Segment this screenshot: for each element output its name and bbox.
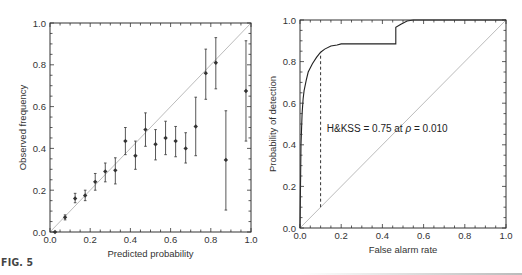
figure-label: FIG. 5: [1, 256, 33, 269]
data-point-marker: [224, 158, 228, 162]
x-tick-label: 0.8: [458, 230, 471, 241]
data-point-marker: [123, 139, 127, 143]
data-point-marker: [194, 124, 198, 128]
annotation-prefix: H&KSS = 0.75 at: [327, 123, 406, 134]
annotation-suffix: = 0.010: [411, 123, 448, 134]
x-axis-label: False alarm rate: [369, 244, 438, 255]
figure-canvas: 0.00.20.40.60.81.00.00.20.40.60.81.0 Pre…: [0, 0, 522, 275]
data-point-marker: [113, 168, 117, 172]
data-point-marker: [153, 142, 157, 146]
y-tick-label: 0.2: [33, 185, 46, 196]
x-tick-label: 1.0: [499, 230, 512, 241]
data-point-marker: [173, 139, 177, 143]
y-tick-label: 1.0: [33, 18, 46, 29]
data-point-marker: [244, 89, 248, 93]
y-tick-label: 0.0: [283, 223, 296, 234]
data-point-marker: [183, 146, 187, 150]
data-point-marker: [73, 196, 77, 200]
data-point-marker: [63, 215, 67, 219]
data-point-marker: [133, 154, 137, 158]
x-axis-label: Predicted probability: [107, 248, 193, 259]
reference-diagonal: [50, 23, 251, 232]
x-tick-label: 1.0: [244, 234, 257, 245]
x-tick-label: 0.2: [335, 230, 348, 241]
y-tick-label: 0.0: [33, 227, 46, 238]
y-axis-label: Probability of detection: [267, 76, 278, 172]
y-tick-label: 0.6: [33, 101, 46, 112]
x-tick-label: 0.8: [204, 234, 217, 245]
x-tick-label: 0.6: [164, 234, 177, 245]
y-tick-label: 0.4: [283, 139, 296, 150]
y-tick-label: 0.8: [33, 59, 46, 70]
data-points: [53, 38, 248, 235]
y-tick-label: 1.0: [283, 15, 296, 26]
x-tick-label: 0.6: [417, 230, 430, 241]
reliability-diagram: 0.00.20.40.60.81.00.00.20.40.60.81.0 Pre…: [17, 18, 258, 260]
y-tick-label: 0.6: [283, 98, 296, 109]
x-tick-label: 0.4: [124, 234, 137, 245]
y-tick-label: 0.8: [283, 56, 296, 67]
y-tick-label: 0.4: [33, 143, 46, 154]
x-tick-label: 0.2: [84, 234, 97, 245]
roc-curve-plot: 0.00.20.40.60.81.00.00.20.40.60.81.0 H&K…: [267, 15, 513, 256]
data-point-marker: [163, 136, 167, 140]
x-tick-label: 0.4: [376, 230, 389, 241]
y-axis-label: Observed frequency: [17, 84, 28, 170]
y-tick-label: 0.2: [283, 181, 296, 192]
hkss-annotation: H&KSS = 0.75 at ρ = 0.010: [327, 123, 448, 134]
